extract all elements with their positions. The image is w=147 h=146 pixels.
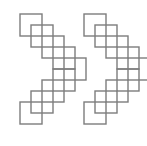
figure-canvas xyxy=(0,0,147,146)
zigzag-figure-svg xyxy=(0,0,147,146)
